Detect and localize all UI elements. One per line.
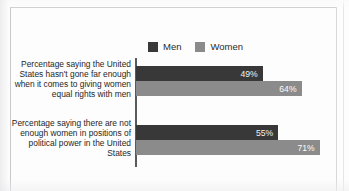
chart-legend: Men Women <box>148 40 243 54</box>
bar-value-group-1-men: 55% <box>256 128 278 138</box>
bar-value-group-1-women: 71% <box>297 143 319 153</box>
legend-item-women: Women <box>195 42 243 52</box>
bar-group-1-women: 71% <box>136 140 320 155</box>
category-label-group-0: Percentage saying the United States hasn… <box>11 60 136 100</box>
women-swatch-icon <box>195 42 205 52</box>
bar-group-0-women: 64% <box>136 81 302 96</box>
bar-group-1-men: 55% <box>136 125 278 140</box>
legend-label-men: Men <box>163 42 181 52</box>
bar-group-0-men: 49% <box>136 66 263 81</box>
category-label-group-1: Percentage saying there are not enough w… <box>11 119 136 159</box>
bar-value-group-0-men: 49% <box>241 69 263 79</box>
scanned-page: Men Women Percentage saying the United S… <box>0 0 349 191</box>
bar-value-group-0-women: 64% <box>279 84 301 94</box>
men-swatch-icon <box>148 42 158 52</box>
legend-item-men: Men <box>148 42 181 52</box>
grouped-bar-chart: Men Women Percentage saying the United S… <box>0 0 349 191</box>
legend-label-women: Women <box>210 42 243 52</box>
